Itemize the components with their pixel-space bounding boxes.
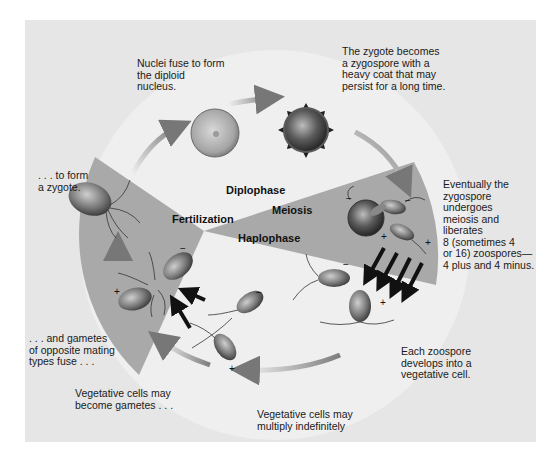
minus-sign: − <box>405 195 411 206</box>
annotation-meiosis: Eventually the zygospore undergoes meios… <box>443 179 534 271</box>
minus-sign: − <box>180 243 186 254</box>
minus-sign: − <box>343 259 349 270</box>
annotation-become-gametes: Vegetative cells may become gametes . . … <box>75 388 173 411</box>
annotation-zoospore-develops: Each zoospore develops into a vegetative… <box>401 346 472 381</box>
phase-label-fertilization: Fertilization <box>172 213 234 225</box>
phase-label-haplophase: Haplophase <box>238 232 300 244</box>
minus-sign: − <box>346 193 352 204</box>
annotation-gametes-fuse: . . . and gametes of opposite mating typ… <box>29 333 115 368</box>
annotation-form-zygote: . . . to form a zygote. <box>38 170 88 193</box>
annotation-multiply: Vegetative cells may multiply indefinite… <box>257 409 353 432</box>
plus-sign: + <box>425 237 431 248</box>
plus-sign: + <box>381 231 387 242</box>
plus-sign: + <box>380 297 386 308</box>
phase-label-diplophase: Diplophase <box>226 184 285 196</box>
annotation-zygospore: The zygote becomes a zygospore with a he… <box>342 46 445 92</box>
minus-sign: − <box>256 287 262 298</box>
plus-sign: + <box>229 363 235 374</box>
annotation-nuclei-fuse: Nuclei fuse to form the diploid nucleus. <box>137 58 225 93</box>
plus-sign: + <box>114 286 120 297</box>
phase-label-meiosis: Meiosis <box>272 204 312 216</box>
